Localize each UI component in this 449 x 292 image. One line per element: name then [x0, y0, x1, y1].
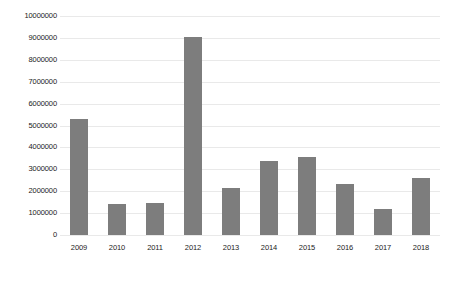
plot-area: [60, 16, 440, 235]
bars-layer: [60, 16, 440, 235]
x-axis-tick-label: 2015: [288, 243, 326, 252]
y-axis-tick-label: 3000000: [0, 165, 57, 173]
y-axis-tick-label: 5000000: [0, 122, 57, 130]
y-axis-tick-label: 0: [0, 231, 57, 239]
y-axis-tick-label: 4000000: [0, 143, 57, 151]
x-axis-tick-label: 2014: [250, 243, 288, 252]
y-axis-tick-label: 9000000: [0, 34, 57, 42]
y-axis-tick-label: 6000000: [0, 100, 57, 108]
y-axis-tick-label: 10000000: [0, 12, 57, 20]
y-axis-tick-label: 2000000: [0, 187, 57, 195]
x-axis-tick-label: 2012: [174, 243, 212, 252]
bar[interactable]: [412, 178, 430, 235]
y-axis-tick-label: 7000000: [0, 78, 57, 86]
y-axis-tick-label: 8000000: [0, 56, 57, 64]
bar[interactable]: [146, 203, 164, 235]
x-axis-tick-label: 2013: [212, 243, 250, 252]
y-axis-tick-label: 1000000: [0, 209, 57, 217]
bar[interactable]: [108, 204, 126, 235]
x-axis-labels: 2009201020112012201320142015201620172018: [60, 243, 440, 263]
bar[interactable]: [374, 209, 392, 235]
bar[interactable]: [184, 37, 202, 235]
x-axis-tick-label: 2017: [364, 243, 402, 252]
x-axis-tick-label: 2018: [402, 243, 440, 252]
bar-chart: 0100000020000003000000400000050000006000…: [0, 0, 449, 292]
x-axis-tick-label: 2011: [136, 243, 174, 252]
bar[interactable]: [222, 188, 240, 235]
bar[interactable]: [260, 161, 278, 235]
x-axis-tick-label: 2009: [60, 243, 98, 252]
bar[interactable]: [336, 184, 354, 235]
x-axis-tick-label: 2016: [326, 243, 364, 252]
bar[interactable]: [298, 157, 316, 235]
gridline: [60, 235, 440, 236]
bar[interactable]: [70, 119, 88, 235]
y-axis-labels: 0100000020000003000000400000050000006000…: [0, 0, 57, 292]
x-axis-tick-label: 2010: [98, 243, 136, 252]
